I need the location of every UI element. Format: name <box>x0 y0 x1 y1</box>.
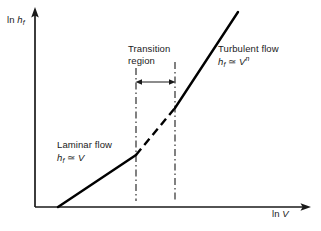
transition-span-arrow <box>136 79 176 84</box>
turbulent-flow-label: Turbulent flow hf ≃ Vn <box>218 43 279 68</box>
transition-label-line1: Transition <box>128 43 170 54</box>
laminar-label-title: Laminar flow <box>57 139 112 150</box>
transition-region-segment <box>136 108 175 155</box>
laminar-flow-label: Laminar flow hf ≃ V <box>57 139 112 164</box>
laminar-flow-formula: hf ≃ V <box>57 152 112 165</box>
transition-region-label: Transition region <box>128 43 170 66</box>
figure-container: ln hf ln V Transition region Turbulent f… <box>0 0 321 231</box>
axes-group <box>31 7 311 211</box>
turbulent-flow-formula: hf ≃ Vn <box>218 56 279 69</box>
x-axis-label: ln V <box>272 208 289 220</box>
transition-label-line2: region <box>128 55 155 66</box>
turbulent-label-title: Turbulent flow <box>218 43 279 54</box>
diagram-canvas <box>0 0 321 231</box>
y-axis-label: ln hf <box>7 14 25 27</box>
data-curve-group <box>58 12 238 207</box>
